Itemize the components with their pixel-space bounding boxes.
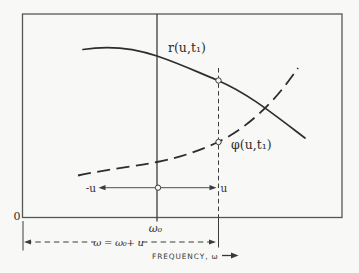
left-arrowhead-icon — [24, 239, 31, 244]
phi-curve — [78, 68, 298, 176]
plus-u-label: u — [221, 182, 228, 194]
figure-canvas: r(u,t₁) φ(u,t₁) -u u 0 ω₀ ω = ω₀+ u FREQ… — [0, 0, 359, 273]
r-curve-label: r(u,t₁) — [168, 40, 206, 55]
omega-zero-point-marker — [155, 185, 160, 190]
right-arrowhead-icon — [210, 185, 217, 190]
omega-zero-label: ω₀ — [149, 222, 163, 235]
origin-label: 0 — [14, 210, 21, 223]
frequency-axis-label: FREQUENCY, ω — [152, 252, 219, 261]
phi-sample-point-marker — [216, 139, 221, 144]
r-sample-point-marker — [216, 78, 221, 83]
r-curve — [83, 48, 305, 138]
minus-u-label: -u — [86, 182, 97, 194]
omega-equation-label: ω = ω₀+ u — [93, 237, 143, 248]
phi-curve-label: φ(u,t₁) — [231, 137, 272, 152]
left-arrowhead-icon — [99, 185, 106, 190]
diagram-svg: r(u,t₁) φ(u,t₁) -u u 0 ω₀ ω = ω₀+ u FREQ… — [0, 0, 359, 273]
right-arrowhead-icon — [209, 239, 216, 244]
frequency-axis-arrow-icon — [222, 253, 239, 259]
